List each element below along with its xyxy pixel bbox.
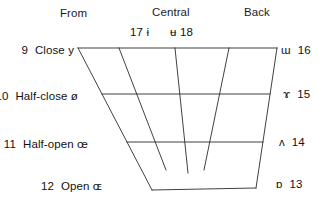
right-label-15: ɤ15 xyxy=(283,88,310,100)
right-label-13: ɒ13 xyxy=(276,178,303,190)
right-label-number: 15 xyxy=(297,88,310,100)
left-label-text: Half-open œ xyxy=(23,138,88,150)
vowel-quadrilateral-diagram: From Central Back 17 ɨ ʉ 18 9Close y 10H… xyxy=(0,0,325,219)
back-edge-line xyxy=(256,48,277,188)
right-label-number: 16 xyxy=(298,44,311,56)
right-label-symbol: ɒ xyxy=(276,178,283,190)
left-label-half-close: 10Half-close ø xyxy=(0,90,78,102)
central-vowel-18: ʉ 18 xyxy=(170,26,193,38)
column-header-back: Back xyxy=(244,6,270,18)
left-label-text: Close y xyxy=(35,44,74,56)
right-label-16: ɯ16 xyxy=(281,44,311,56)
interior-slant-line-3 xyxy=(204,48,229,170)
right-label-number: 13 xyxy=(290,178,303,190)
left-label-number: 10 xyxy=(0,90,8,102)
left-label-text: Half-close ø xyxy=(15,90,78,102)
central-vowel-17: 17 ɨ xyxy=(130,26,149,38)
right-label-symbol: ɤ xyxy=(283,88,290,100)
left-label-half-open: 11Half-open œ xyxy=(4,138,88,150)
quad-interior-slants xyxy=(119,48,229,173)
left-label-number: 9 xyxy=(21,44,28,56)
front-edge-line xyxy=(78,48,152,190)
right-label-number: 14 xyxy=(292,136,305,148)
column-header-central: Central xyxy=(152,6,190,18)
right-label-14: ʌ14 xyxy=(279,136,305,148)
right-label-symbol: ʌ xyxy=(279,136,285,148)
quad-horizontal-rows xyxy=(102,94,270,142)
left-label-number: 12 xyxy=(41,180,54,192)
left-label-text: Open ɶ xyxy=(61,180,102,192)
right-label-symbol: ɯ xyxy=(281,44,291,56)
left-label-number: 11 xyxy=(4,138,16,150)
column-header-front: From xyxy=(60,7,87,19)
interior-slant-line-2 xyxy=(175,48,188,173)
left-label-open: 12Open ɶ xyxy=(41,180,102,192)
bottom-edge-open-line xyxy=(152,188,256,190)
left-label-close: 9Close y xyxy=(21,44,74,56)
interior-slant-line-1 xyxy=(119,48,166,170)
